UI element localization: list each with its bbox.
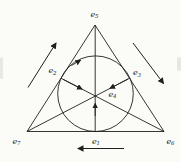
label-e1: e 1: [92, 137, 100, 147]
scan-artifact-right: [177, 57, 181, 71]
label-e4: e 4: [109, 90, 117, 100]
label-e2-sub: 2: [52, 70, 57, 76]
label-e5: e 5: [91, 10, 99, 20]
label-e5-sub: 5: [95, 13, 99, 19]
fano-plane-diagram: e 5 e 2 e 3 e 4 e 7 e 1: [0, 0, 181, 162]
label-e3-sub: 3: [137, 72, 141, 78]
label-e6-sub: 6: [171, 140, 175, 146]
label-e6: e 6: [167, 137, 175, 147]
label-e3: e 3: [133, 68, 141, 78]
arrow-e2-toward-center: [63, 79, 82, 89]
label-e4-sub: 4: [112, 93, 117, 99]
label-e2: e 2: [49, 66, 57, 76]
fano-plane-figure: e 5 e 2 e 3 e 4 e 7 e 1: [0, 0, 181, 162]
scan-artifact-left: [0, 57, 3, 79]
label-e1-sub: 1: [96, 140, 100, 146]
arrow-e3-toward-center: [110, 79, 128, 88]
label-e7-sub: 7: [17, 140, 21, 146]
label-e7: e 7: [13, 137, 21, 147]
